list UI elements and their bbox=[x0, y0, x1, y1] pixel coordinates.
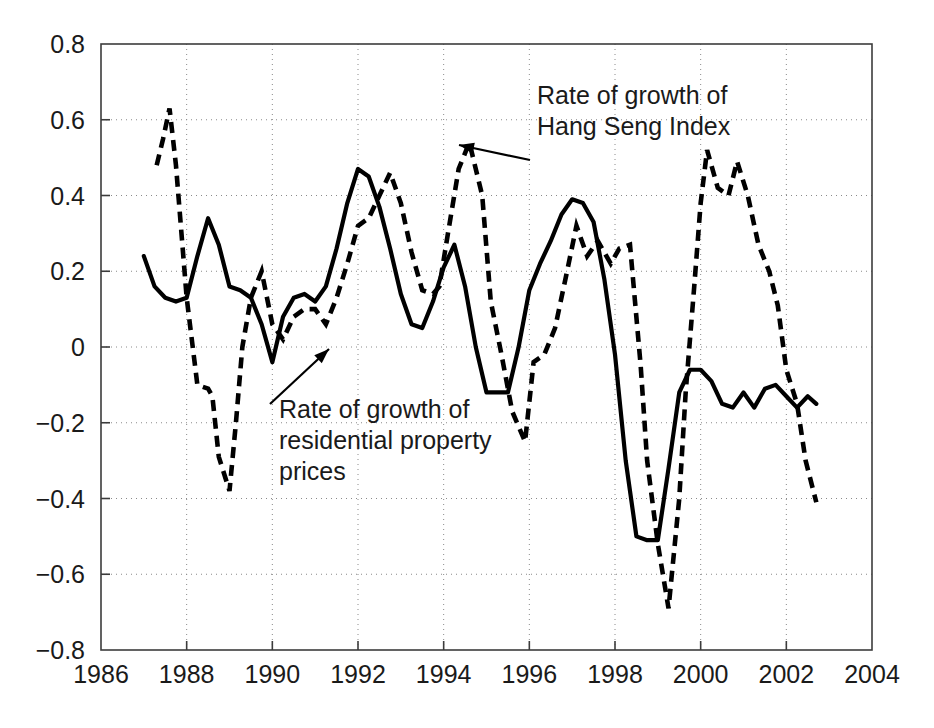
annotations-group: Rate of growth ofHang Seng IndexRate of … bbox=[270, 81, 731, 485]
data-series-group bbox=[144, 108, 816, 608]
series-line-hang-seng-index bbox=[157, 108, 817, 608]
property-prices-annotation-line: Rate of growth of bbox=[279, 395, 469, 423]
hang-seng-annotation: Rate of growth ofHang Seng Index bbox=[459, 81, 731, 160]
hang-seng-annotation-line: Hang Seng Index bbox=[537, 112, 731, 140]
x-axis-tick-label: 1998 bbox=[587, 660, 643, 688]
y-axis-tick-label: −0.4 bbox=[36, 485, 85, 513]
x-axis-tick-label: 2004 bbox=[844, 660, 900, 688]
chart-figure: 0.80.60.40.20−0.2−0.4−0.6−0.819861988199… bbox=[0, 0, 934, 728]
x-axis-tick-label: 1986 bbox=[73, 660, 129, 688]
chart-canvas: 0.80.60.40.20−0.2−0.4−0.6−0.819861988199… bbox=[0, 0, 934, 728]
gridlines-group bbox=[101, 44, 872, 650]
x-axis-tick-label: 2000 bbox=[673, 660, 729, 688]
x-axis-tick-label: 1990 bbox=[245, 660, 301, 688]
y-axis-tick-label: −0.6 bbox=[36, 560, 85, 588]
x-axis-tick-label: 1988 bbox=[159, 660, 215, 688]
y-axis-tick-label: 0.8 bbox=[50, 30, 85, 58]
hang-seng-annotation-text: Rate of growth ofHang Seng Index bbox=[537, 81, 731, 140]
y-axis-tick-label: −0.2 bbox=[36, 409, 85, 437]
property-prices-annotation-line: residential property bbox=[279, 426, 492, 454]
y-axis-tick-label: 0.4 bbox=[50, 182, 85, 210]
x-axis-tick-label: 1994 bbox=[416, 660, 472, 688]
x-axis-tick-label: 2002 bbox=[759, 660, 815, 688]
series-line-residential-property-prices bbox=[144, 169, 816, 540]
property-prices-annotation: Rate of growth ofresidential propertypri… bbox=[270, 349, 492, 485]
x-axis-tick-label: 1996 bbox=[502, 660, 558, 688]
y-axis-tick-label: 0.6 bbox=[50, 106, 85, 134]
y-axis-tick-label: 0 bbox=[71, 333, 85, 361]
property-prices-annotation-text: Rate of growth ofresidential propertypri… bbox=[279, 395, 492, 485]
x-axis-tick-label: 1992 bbox=[330, 660, 386, 688]
y-axis-tick-label: 0.2 bbox=[50, 257, 85, 285]
hang-seng-annotation-line: Rate of growth of bbox=[537, 81, 727, 109]
property-prices-annotation-line: prices bbox=[279, 457, 346, 485]
